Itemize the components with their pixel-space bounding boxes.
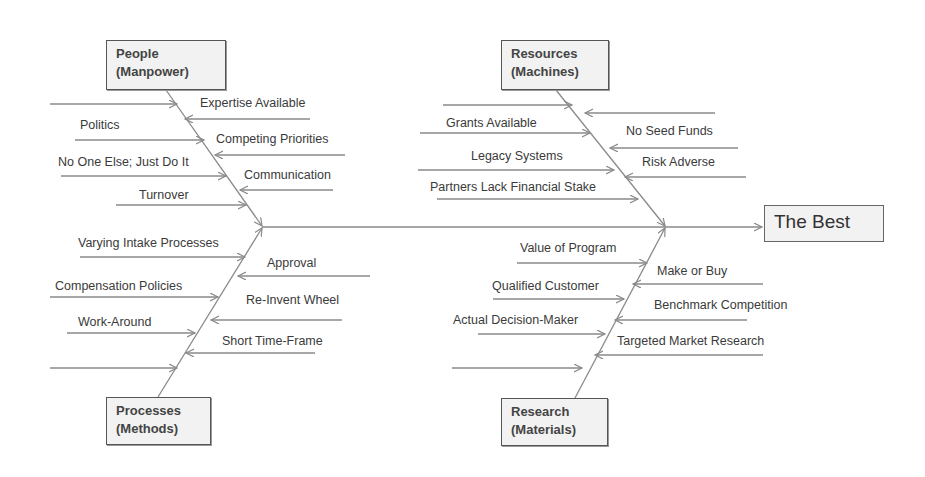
cause-label: Value of Program	[520, 241, 616, 255]
cause-label: Compensation Policies	[55, 279, 182, 293]
cause-label: No Seed Funds	[626, 124, 713, 138]
cause-label: Communication	[244, 168, 331, 182]
category-subtitle: (Manpower)	[116, 63, 225, 81]
category-processes: Processes (Methods)	[106, 397, 211, 445]
fishbone-diagram: People (Manpower) Resources (Machines) P…	[0, 0, 925, 477]
cause-label: Competing Priorities	[216, 132, 329, 146]
effect-box: The Best	[764, 205, 884, 242]
cause-label: Risk Adverse	[642, 155, 715, 169]
cause-label: Expertise Available	[200, 96, 305, 110]
cause-label: Re-Invent Wheel	[246, 293, 339, 307]
category-resources: Resources (Machines)	[501, 40, 609, 90]
category-subtitle: (Materials)	[511, 421, 607, 439]
cause-label: Make or Buy	[657, 264, 727, 278]
cause-label: Grants Available	[446, 116, 537, 130]
category-subtitle: (Machines)	[511, 63, 608, 81]
cause-label: No One Else; Just Do It	[58, 155, 189, 169]
cause-label: Legacy Systems	[471, 149, 563, 163]
cause-label: Short Time-Frame	[222, 334, 323, 348]
cause-label: Politics	[80, 118, 120, 132]
cause-label: Varying Intake Processes	[78, 236, 219, 250]
cause-label: Actual Decision-Maker	[453, 313, 578, 327]
cause-label: Benchmark Competition	[654, 298, 787, 312]
category-people: People (Manpower)	[106, 40, 226, 90]
category-subtitle: (Methods)	[116, 420, 210, 438]
category-title: Resources	[511, 45, 608, 63]
cause-label: Approval	[267, 256, 316, 270]
cause-label: Work-Around	[78, 315, 151, 329]
cause-label: Partners Lack Financial Stake	[430, 180, 596, 194]
processes-bone	[158, 228, 262, 397]
category-title: Processes	[116, 402, 210, 420]
category-title: People	[116, 45, 225, 63]
category-research: Research (Materials)	[501, 398, 608, 446]
category-title: Research	[511, 403, 607, 421]
cause-label: Turnover	[139, 188, 189, 202]
effect-label: The Best	[774, 211, 850, 232]
cause-label: Qualified Customer	[492, 279, 599, 293]
cause-label: Targeted Market Research	[617, 334, 764, 348]
